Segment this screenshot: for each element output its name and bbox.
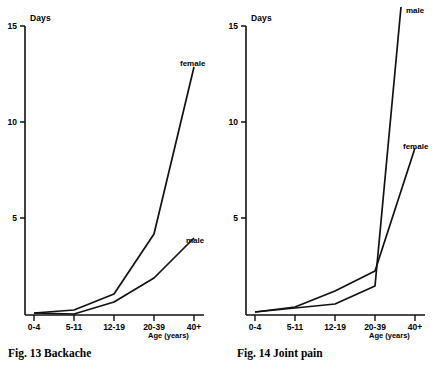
plot-area-joint-pain: Days 15 10 5 0-4 5-11 12-19 20-39 40+ Ag…: [221, 0, 442, 340]
series-label-female: female: [403, 142, 428, 151]
x-tick-label-5-11: 5-11: [57, 322, 91, 332]
x-tick-label-0-4: 0-4: [17, 322, 51, 332]
series-label-male: male: [406, 6, 424, 15]
series-line-male: [255, 7, 401, 312]
chart-svg-joint-pain: [221, 0, 442, 340]
plot-area-backache: Days 15 10 5 0-4 5-11 12-19 20-39 40+ Ag…: [0, 0, 221, 340]
y-tick-label-15: 15: [1, 21, 17, 31]
x-tick-label-12-19: 12-19: [97, 322, 131, 332]
series-label-female: female: [180, 59, 205, 68]
x-axis-title: Age (years): [148, 331, 189, 340]
y-tick-label-5: 5: [1, 213, 17, 223]
x-axis-title: Age (years): [369, 331, 410, 340]
y-axis-unit-label: Days: [251, 13, 272, 23]
x-tick-label-12-19: 12-19: [318, 322, 352, 332]
y-tick-label-15: 15: [222, 21, 238, 31]
chart-svg-backache: [0, 0, 221, 340]
series-line-female: [34, 67, 194, 313]
y-axis-unit-label: Days: [30, 13, 51, 23]
figure-backache: Days 15 10 5 0-4 5-11 12-19 20-39 40+ Ag…: [0, 0, 221, 369]
x-tick-label-5-11: 5-11: [278, 322, 312, 332]
figure-caption-backache: Fig. 13 Backache: [8, 347, 91, 359]
figure-caption-joint-pain: Fig. 14 Joint pain: [237, 347, 323, 359]
series-line-female: [255, 148, 415, 312]
y-tick-label-10: 10: [222, 117, 238, 127]
series-label-male: male: [186, 236, 204, 245]
y-tick-label-5: 5: [222, 213, 238, 223]
x-tick-label-0-4: 0-4: [238, 322, 272, 332]
series-line-male: [34, 238, 194, 314]
figure-joint-pain: Days 15 10 5 0-4 5-11 12-19 20-39 40+ Ag…: [221, 0, 442, 369]
y-tick-label-10: 10: [1, 117, 17, 127]
